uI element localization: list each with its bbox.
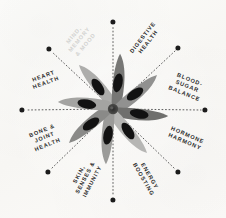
flower-core <box>108 104 118 114</box>
star-anise-benefits-infographic: MIND, MEMORY & MOOD DIGESTIVE HEALTH BLO… <box>0 0 226 218</box>
star-anise-flower-icon <box>0 0 226 218</box>
